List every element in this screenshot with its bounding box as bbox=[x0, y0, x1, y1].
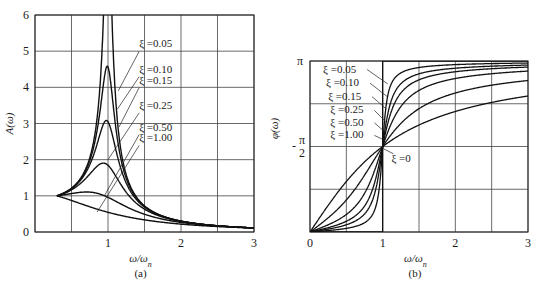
series-label: ξ =0.05 bbox=[323, 63, 357, 76]
y-axis-label: φ(ω) bbox=[268, 118, 281, 140]
leader-line bbox=[372, 97, 386, 109]
leader-line bbox=[374, 110, 385, 121]
y-tick-minus: - bbox=[292, 139, 296, 153]
series-label: ξ =0.10 bbox=[326, 76, 360, 89]
y-tick-half-den: 2 bbox=[299, 146, 305, 160]
curve bbox=[57, 192, 254, 228]
y-tick-label: 4 bbox=[23, 80, 29, 94]
series-label: ξ =0.15 bbox=[328, 90, 362, 103]
leader-line bbox=[367, 70, 388, 84]
y-tick-label: 5 bbox=[23, 44, 29, 58]
y-tick-pi: π bbox=[297, 54, 303, 68]
y-tick-half-num: π bbox=[299, 133, 305, 147]
series-label: ξ =1.00 bbox=[139, 131, 173, 144]
plot-a-amplitude: 0123456123ω/ωnA(ω)(a)ξ =0.05ξ =0.10ξ =0.… bbox=[3, 0, 257, 280]
x-tick-label: 2 bbox=[178, 236, 184, 250]
series-label: ξ =0 bbox=[391, 152, 411, 165]
leader-line bbox=[370, 83, 387, 96]
y-tick-label: 1 bbox=[23, 189, 29, 203]
x-tick-label: 3 bbox=[525, 236, 531, 250]
x-tick-label: 3 bbox=[251, 236, 257, 250]
caption-b: (b) bbox=[409, 267, 422, 280]
caption-a: (a) bbox=[134, 267, 147, 280]
y-tick-label: 6 bbox=[23, 8, 29, 22]
x-tick-label: 0 bbox=[307, 236, 313, 250]
curve bbox=[57, 66, 254, 227]
series-label: ξ =0.25 bbox=[330, 103, 364, 116]
series-label: ξ =0.50 bbox=[330, 116, 364, 129]
figure: 0123456123ω/ωnA(ω)(a)ξ =0.05ξ =0.10ξ =0.… bbox=[0, 0, 536, 290]
curve bbox=[57, 0, 254, 228]
series-label: ξ =0.25 bbox=[139, 99, 173, 112]
y-tick-label: 2 bbox=[23, 153, 29, 167]
plot-b-phase: π-π20123ω/ωnφ(ω)(b)ξ =0.05ξ =0.10ξ =0.15… bbox=[268, 54, 531, 280]
leader-line bbox=[119, 88, 139, 128]
curve bbox=[57, 196, 254, 228]
curves-a bbox=[57, 0, 254, 228]
y-tick-label: 0 bbox=[23, 225, 29, 239]
y-tick-label: 3 bbox=[23, 117, 29, 131]
x-tick-label: 1 bbox=[380, 236, 386, 250]
series-label: ξ =0.05 bbox=[139, 37, 173, 50]
leader-line bbox=[117, 77, 139, 109]
x-tick-label: 2 bbox=[452, 236, 458, 250]
leader-line bbox=[118, 51, 139, 91]
y-axis-label: A(ω) bbox=[3, 112, 16, 135]
x-tick-label: 1 bbox=[105, 236, 111, 250]
series-label: ξ =0.15 bbox=[139, 74, 173, 87]
series-label: ξ =1.00 bbox=[330, 128, 364, 141]
